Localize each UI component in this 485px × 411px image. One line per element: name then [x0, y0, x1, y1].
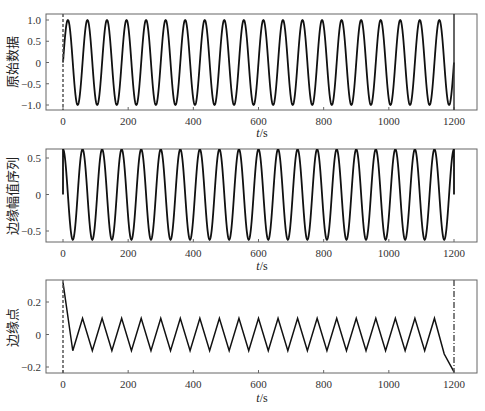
series-edge-amplitude	[63, 149, 454, 240]
y-axis-label: 边缘点	[5, 308, 20, 347]
x-tick-label: 1200	[443, 378, 466, 390]
y-tick-label: 0	[36, 57, 42, 69]
x-tick-label: 1000	[378, 115, 401, 127]
y-tick-label: −0.2	[21, 361, 41, 373]
y-tick-label: −1.0	[21, 99, 41, 111]
y-tick-label: 0.5	[27, 152, 41, 164]
y-tick-label: 1.0	[27, 14, 41, 26]
x-tick-label: 200	[120, 115, 137, 127]
x-tick-label: 400	[185, 115, 202, 127]
x-tick-label: 200	[120, 247, 137, 259]
y-tick-label: 0	[36, 329, 42, 341]
y-tick-label: −0.5	[21, 78, 41, 90]
x-tick-label: 1200	[443, 115, 466, 127]
x-tick-label: 400	[185, 378, 202, 390]
x-tick-label: 800	[315, 247, 332, 259]
y-axis-label: 边缘幅值序列	[5, 157, 20, 235]
x-axis-label: t/s	[256, 126, 268, 140]
subplot-2: 0200400600800100012000.50−0.5边缘幅值序列t/s	[5, 149, 477, 273]
x-tick-label: 0	[60, 378, 66, 390]
y-tick-label: 0	[36, 189, 42, 201]
subplot-1: 0200400600800100012001.00.50−0.5−1.0原始数据…	[5, 14, 477, 140]
x-tick-label: 400	[185, 247, 202, 259]
x-axis-label: t/s	[256, 259, 268, 273]
x-tick-label: 200	[120, 378, 137, 390]
y-tick-label: 0.5	[27, 35, 41, 47]
series-edge-points	[63, 283, 454, 372]
x-tick-label: 600	[250, 247, 267, 259]
y-tick-label: −0.5	[21, 225, 41, 237]
series-signal	[63, 20, 454, 105]
x-tick-label: 0	[60, 115, 66, 127]
figure: 0200400600800100012001.00.50−0.5−1.0原始数据…	[0, 0, 485, 411]
x-tick-label: 1000	[378, 247, 401, 259]
x-tick-label: 1200	[443, 247, 466, 259]
x-axis-label: t/s	[256, 391, 268, 405]
x-tick-label: 0	[60, 247, 66, 259]
x-tick-label: 800	[315, 378, 332, 390]
x-tick-label: 800	[315, 115, 332, 127]
y-axis-label: 原始数据	[5, 36, 20, 88]
x-tick-label: 1000	[378, 378, 401, 390]
subplot-3: 0200400600800100012000.20−0.2边缘点t/s	[5, 280, 477, 405]
y-tick-label: 0.2	[27, 296, 41, 308]
x-tick-label: 600	[250, 378, 267, 390]
